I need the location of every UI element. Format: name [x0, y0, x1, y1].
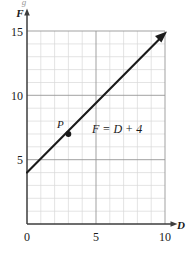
x-tick-label-0: 0 [24, 230, 30, 244]
line-chart-svg: P F = D + 4 15 10 5 0 5 10 F D g [0, 0, 187, 253]
chart-figure: P F = D + 4 15 10 5 0 5 10 F D g [0, 0, 187, 253]
x-tick-label-10: 10 [159, 230, 171, 244]
point-p-label: P [56, 118, 64, 130]
y-tick-label-15: 15 [11, 25, 23, 39]
x-axis-label: D [176, 219, 185, 231]
point-p-marker [66, 131, 72, 137]
x-tick-label-5: 5 [93, 230, 99, 244]
scan-artifact: g [22, 0, 27, 7]
equation-annotation: F = D + 4 [91, 122, 142, 136]
y-axis-label: F [15, 7, 24, 19]
y-tick-label-5: 5 [17, 153, 23, 167]
y-tick-label-10: 10 [11, 89, 23, 103]
